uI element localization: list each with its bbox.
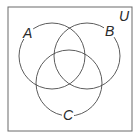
set-a-label: A — [22, 25, 32, 41]
set-c-label: C — [63, 107, 74, 123]
set-b-label: B — [105, 23, 114, 39]
universe-label: U — [119, 8, 130, 24]
venn-diagram: A B C U — [0, 0, 140, 138]
